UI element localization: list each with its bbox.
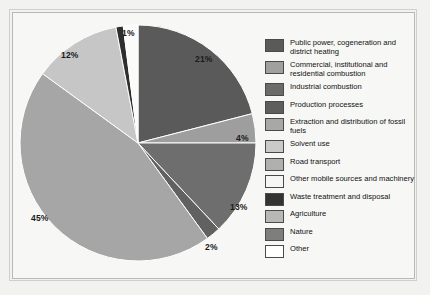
legend-item[interactable]: Industrial combustion	[265, 82, 417, 96]
legend-item-label: Other	[290, 244, 309, 253]
legend-swatch-icon	[265, 245, 284, 258]
legend-item[interactable]: Commercial, institutional and residentia…	[265, 60, 417, 79]
legend-item-label: Extraction and distribution of fossil fu…	[290, 117, 417, 136]
legend-swatch-icon	[265, 158, 284, 171]
slice-label-21: 21%	[195, 54, 213, 64]
legend-item-label: Production processes	[290, 100, 363, 109]
legend-item-label: Industrial combustion	[290, 82, 362, 91]
slice-label-45: 45%	[31, 213, 49, 223]
legend-swatch-icon	[265, 101, 284, 114]
legend-item-label: Road transport	[290, 157, 340, 166]
legend-swatch-icon	[265, 118, 284, 131]
slice-label-4: 4%	[236, 133, 249, 143]
pie-chart-figure: 21% 4% 13% 2% 45% 12% 1% Public power, c…	[12, 12, 415, 279]
legend-item-label: Commercial, institutional and residentia…	[290, 60, 417, 79]
legend-item-label: Agriculture	[290, 209, 326, 218]
legend-item-label: Nature	[290, 227, 313, 236]
legend-swatch-icon	[265, 61, 284, 74]
legend-swatch-icon	[265, 228, 284, 241]
chart-legend: Public power, cogeneration and district …	[265, 38, 417, 262]
slice-label-2: 2%	[205, 242, 218, 252]
legend-swatch-icon	[265, 193, 284, 206]
legend-item-label: Waste treatment and disposal	[290, 192, 390, 201]
legend-item[interactable]: Public power, cogeneration and district …	[265, 38, 417, 57]
slice-label-13: 13%	[230, 202, 248, 212]
legend-item-label: Other mobile sources and machinery	[290, 174, 414, 183]
legend-swatch-icon	[265, 83, 284, 96]
legend-swatch-icon	[265, 175, 284, 188]
legend-item[interactable]: Production processes	[265, 100, 417, 114]
legend-swatch-icon	[265, 39, 284, 52]
legend-item-label: Solvent use	[290, 139, 330, 148]
legend-item[interactable]: Extraction and distribution of fossil fu…	[265, 117, 417, 136]
legend-item[interactable]: Road transport	[265, 157, 417, 171]
slice-label-12: 12%	[61, 50, 79, 60]
legend-swatch-icon	[265, 140, 284, 153]
legend-item[interactable]: Solvent use	[265, 139, 417, 153]
legend-item[interactable]: Agriculture	[265, 209, 417, 223]
slice-label-1: 1%	[122, 28, 135, 38]
pie-slices-group	[20, 25, 256, 261]
legend-item[interactable]: Nature	[265, 227, 417, 241]
legend-item[interactable]: Other mobile sources and machinery	[265, 174, 417, 188]
legend-swatch-icon	[265, 210, 284, 223]
legend-item[interactable]: Other	[265, 244, 417, 258]
legend-item[interactable]: Waste treatment and disposal	[265, 192, 417, 206]
legend-item-label: Public power, cogeneration and district …	[290, 38, 417, 57]
